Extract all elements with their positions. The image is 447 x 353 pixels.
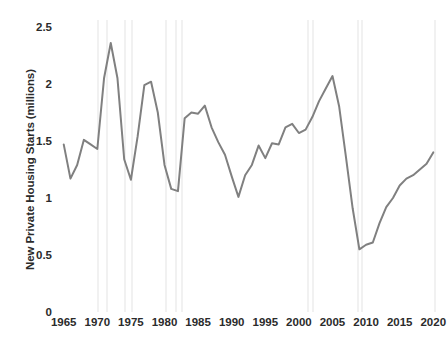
x-tick-label: 2020 <box>411 316 447 329</box>
series-polyline <box>64 43 434 249</box>
housing-starts-line-chart: New Private Housing Starts (millions) 2.… <box>0 0 447 353</box>
plot-area <box>57 20 440 315</box>
series-line-housing-starts <box>57 20 440 315</box>
